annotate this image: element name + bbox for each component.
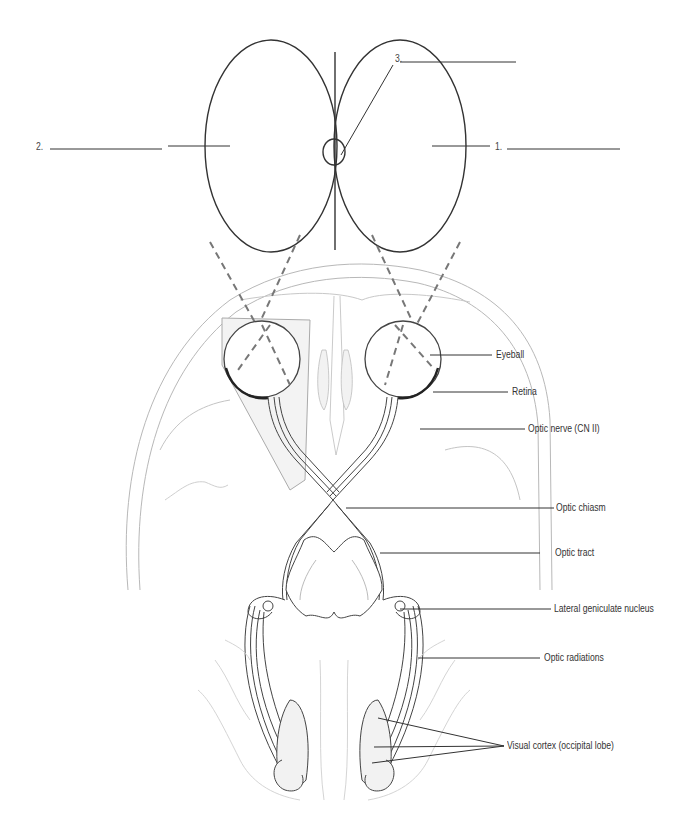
- label-optic-chiasm: Optic chiasm: [556, 502, 606, 514]
- label-retina: Retina: [512, 386, 537, 398]
- diagram-canvas: [0, 0, 692, 833]
- midbrain: [286, 537, 382, 618]
- nasal-septum: [318, 296, 353, 455]
- visual-fields: [205, 40, 466, 252]
- visual-cortex: [274, 700, 394, 791]
- label-lateral-geniculate-nucleus: Lateral geniculate nucleus: [554, 603, 654, 615]
- label-eyeball: Eyeball: [496, 349, 524, 361]
- label-optic-nerve: Optic nerve (CN II): [528, 423, 600, 435]
- label-optic-radiations: Optic radiations: [544, 652, 604, 664]
- blank-label-2: 2.: [36, 141, 43, 153]
- occipital-gyri: [198, 640, 470, 800]
- blank-label-3: 3.: [395, 53, 402, 65]
- label-optic-tract: Optic tract: [555, 547, 594, 559]
- skull-outline: [126, 264, 552, 590]
- blank-label-1: 1.: [495, 141, 502, 153]
- label-visual-cortex: Visual cortex (occipital lobe): [507, 740, 614, 752]
- visual-pathway-diagram: 1. 2. 3. Eyeball Retina Optic nerve (CN …: [0, 0, 692, 833]
